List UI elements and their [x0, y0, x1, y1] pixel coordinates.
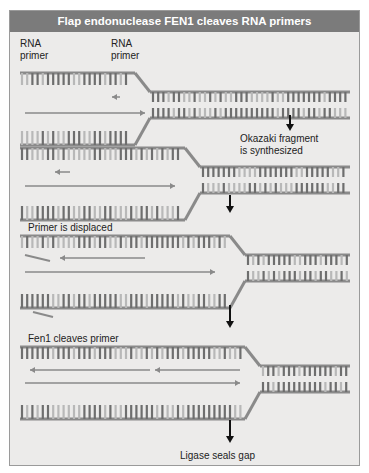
replication-fork-diagram: [0, 0, 369, 473]
